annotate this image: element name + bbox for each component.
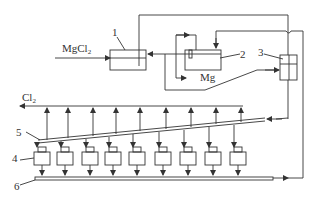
unit-1-box (110, 50, 146, 70)
process-diagram: MgCl2 Cl2 Mg 1 2 3 4 5 6 (0, 0, 316, 204)
bottom-pipe-6 (35, 177, 273, 180)
mg-label: Mg (200, 71, 216, 83)
label-6: 6 (14, 180, 20, 192)
diagram-svg: MgCl2 Cl2 Mg 1 2 3 4 5 6 (0, 0, 316, 204)
label-1: 1 (112, 26, 118, 38)
label-2: 2 (240, 48, 246, 60)
unit-2-box (185, 50, 221, 70)
inclined-pipe-5 (38, 118, 265, 140)
label-5: 5 (16, 126, 22, 138)
mgcl2-label: MgCl2 (62, 42, 92, 56)
cl2-label: Cl2 (22, 91, 36, 105)
label-3: 3 (258, 46, 264, 58)
cell-group-4 (34, 108, 246, 175)
label-4: 4 (12, 152, 18, 164)
